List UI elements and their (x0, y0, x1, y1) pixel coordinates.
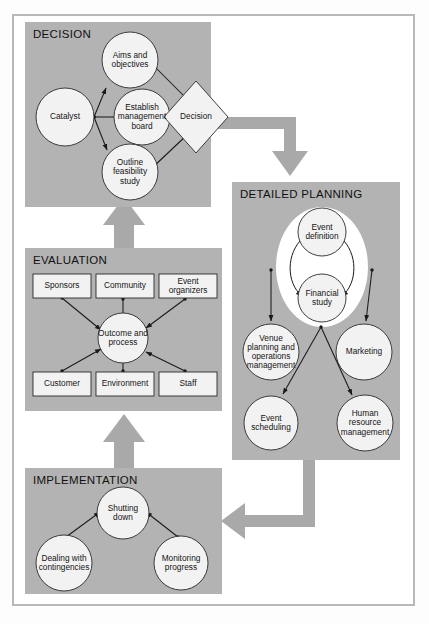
panel-title-evaluation: EVALUATION (33, 254, 107, 266)
label-community: Community (96, 280, 154, 292)
label-venue-planning: Venue planning and operations management (243, 333, 299, 371)
label-customer: Customer (33, 378, 91, 390)
panel-title-decision: DECISION (33, 28, 91, 40)
label-outcome-and-process: Outcome and process (97, 324, 149, 352)
process-diagram-figure: DECISION DETAILED PLANNING EVALUATION IM… (0, 0, 429, 624)
label-human-resource-management: Human resource management (337, 409, 393, 437)
label-catalyst: Catalyst (37, 105, 93, 129)
label-event-scheduling: Event scheduling (245, 413, 297, 433)
label-event-organizers: Event organizers (159, 276, 217, 296)
label-aims-and-objectives: Aims and objectives (104, 46, 156, 74)
flow-implementation-to-evaluation (103, 414, 145, 474)
label-sponsors: Sponsors (33, 280, 91, 292)
label-establish-management-board: Establish management board (113, 103, 171, 131)
label-staff: Staff (159, 378, 217, 390)
label-dealing-with-contingencies: Dealing with contingencies (36, 549, 92, 577)
label-shutting-down: Shutting down (98, 503, 148, 523)
label-financial-study: Financial study (298, 288, 346, 308)
flow-detailed-to-implementation (221, 450, 315, 539)
diagram-canvas (0, 0, 429, 624)
label-environment: Environment (96, 378, 154, 390)
label-monitoring-progress: Monitoring progress (154, 553, 208, 573)
label-decision: Decision (172, 110, 220, 124)
panel-title-implementation: IMPLEMENTATION (33, 474, 138, 486)
panel-title-detailed: DETAILED PLANNING (240, 188, 362, 200)
label-marketing: Marketing (338, 346, 390, 358)
label-outline-feasibility-study: Outline feasibility study (104, 158, 156, 186)
label-event-definition: Event definition (298, 222, 346, 242)
